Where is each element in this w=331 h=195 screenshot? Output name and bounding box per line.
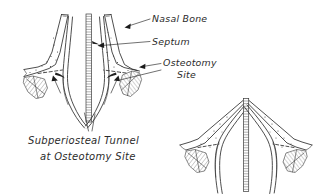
leader-nasal-bone — [125, 19, 151, 29]
right-maxilla-hatch — [120, 71, 142, 97]
illustration-page: Nasal Bone Septum Osteotomy Site Subperi… — [0, 0, 331, 195]
left-lateral-wall — [24, 15, 68, 77]
leader-osteotomy-right — [139, 64, 161, 70]
left-maxilla-hatch — [24, 76, 48, 99]
label-osteotomy-site-line1: Osteotomy — [163, 57, 217, 68]
left-nasal-bone — [62, 15, 69, 17]
caption-line-1: Subperiosteal Tunnel — [28, 135, 139, 146]
septum-hatching — [86, 16, 91, 120]
lr-left-maxilla-hatch — [185, 150, 209, 173]
label-septum: Septum — [152, 36, 190, 47]
arrow-tunnel-right — [111, 76, 120, 94]
upper-left-panel — [24, 14, 142, 128]
left-nasal-lining — [63, 17, 87, 129]
right-osteotomy-fracture-line — [104, 70, 127, 73]
septum-accent-mark — [92, 41, 100, 45]
lr-left-lining — [215, 105, 248, 194]
arrow-tunnel-left — [52, 76, 61, 94]
septum-band-upper — [86, 14, 91, 122]
label-nasal-bone: Nasal Bone — [152, 13, 207, 24]
right-subperiosteal-tunnel — [107, 73, 117, 79]
lr-right-nasal-bone — [248, 101, 312, 151]
caption-line-2: at Osteotomy Site — [40, 151, 136, 162]
lr-right-maxilla-hatch — [283, 150, 307, 173]
right-soft-tissue-stipple — [106, 32, 128, 73]
left-soft-tissue-stipple — [30, 33, 59, 73]
left-osteotomy-fracture-line — [38, 70, 63, 74]
leader-septum — [98, 42, 151, 48]
lr-left-nasal-bone — [180, 101, 244, 151]
lower-right-panel — [180, 99, 312, 194]
left-subperiosteal-tunnel — [55, 73, 65, 79]
septum-band-lower — [244, 99, 249, 192]
nasal-osteotomy-figure: Nasal Bone Septum Osteotomy Site Subperi… — [0, 0, 331, 195]
label-osteotomy-site-line2: Site — [177, 69, 196, 80]
